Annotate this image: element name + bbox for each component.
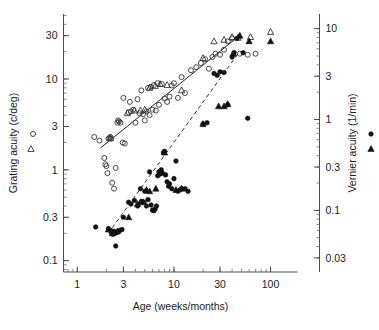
data-point-filled-circle [163,173,168,178]
data-point-filled-circle [120,227,125,232]
x-axis-tick-label: 1 [74,278,80,290]
y-axis-tick-label: 0.1 [43,254,58,266]
y-axis-tick-label: 0.3 [43,211,58,223]
y-axis-right-tick-label: 10 [326,22,338,34]
data-point-filled-circle [146,197,151,202]
data-point-filled-circle [121,215,126,220]
data-point-filled-circle [147,170,152,175]
data-point-filled-circle [222,70,227,75]
y-axis-right-tick-label: 0.3 [326,161,341,173]
data-point-filled-circle [154,204,159,209]
y-axis-right-tick-label: 0.03 [326,252,347,264]
data-point-filled-circle [93,225,98,230]
y-axis-right-tick-label: 1 [326,113,332,125]
y-axis-right-tick-label: 3 [326,70,332,82]
data-point-filled-circle [174,159,179,164]
y-axis-tick-label: 10 [46,73,58,85]
data-point-filled-circle [149,203,154,208]
y-axis-tick-label: 30 [46,29,58,41]
y-axis-tick-label: 3 [52,120,58,132]
data-point-filled-circle [129,202,134,207]
data-point-filled-circle [138,186,143,191]
x-axis-tick-label: 30 [214,278,226,290]
grating-vernier-acuity-chart: 0.10.3131030Grating acuity (c/deg)0.030.… [0,0,379,330]
data-point-filled-circle [186,189,191,194]
y-axis-right-tick-label: 0.1 [326,204,341,216]
data-point-filled-circle [113,244,118,249]
data-point-filled-circle [369,132,374,137]
data-point-filled-circle [205,120,210,125]
y-axis-right-title: Vernier acuity (1/min) [346,93,358,192]
x-axis-title: Age (weeks/months) [133,300,229,312]
y-axis-tick-label: 1 [52,164,58,176]
data-point-filled-circle [167,182,172,187]
data-point-filled-circle [172,176,177,181]
data-point-filled-circle [169,186,174,191]
data-point-filled-circle [144,204,149,209]
data-point-filled-circle [245,116,250,121]
data-point-filled-circle [241,50,246,55]
data-point-filled-circle [132,198,137,203]
x-axis-tick-label: 3 [120,278,126,290]
y-axis-left-title: Grating acuity (c/deg) [7,93,19,193]
x-axis-tick-label: 10 [168,278,180,290]
x-axis-tick-label: 100 [262,278,280,290]
